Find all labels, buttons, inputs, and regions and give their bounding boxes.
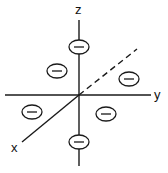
negative-charge-bottom — [69, 135, 89, 149]
negative-charge-top — [69, 40, 89, 54]
z-axis-label: z — [75, 3, 82, 16]
negative-charge-lower-right — [96, 107, 116, 121]
x-axis-label: x — [11, 141, 18, 154]
axes-drawing — [0, 0, 168, 173]
y-axis-label: y — [154, 88, 161, 101]
negative-charge-upper-right — [119, 72, 139, 86]
diagram: z y x — [0, 0, 168, 173]
negative-charge-upper-left — [47, 64, 67, 78]
negative-charge-lower-left — [22, 105, 42, 119]
